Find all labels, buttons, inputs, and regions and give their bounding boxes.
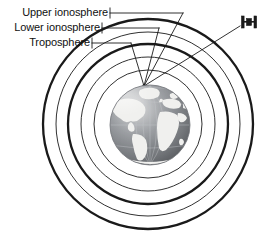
satellite-icon: [242, 16, 257, 28]
label-troposphere: Troposphere: [0, 37, 90, 48]
earth-globe: [108, 84, 190, 165]
label-upper-ionosphere: Upper ionosphere: [0, 7, 108, 18]
leader-satellite: [144, 26, 240, 86]
label-lower-ionosphere: Lower ionosphere: [0, 22, 100, 33]
diagram-vector-layer: [0, 0, 269, 233]
atmosphere-diagram: Upper ionosphere Lower ionosphere Tropos…: [0, 0, 269, 233]
